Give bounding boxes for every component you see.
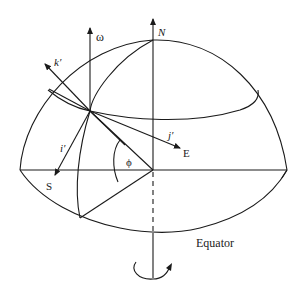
label-k-prime: k′ [54,56,62,68]
label-omega: ω [96,30,104,44]
k-prime-vector [45,64,90,111]
j-prime-vector [90,111,180,148]
label-j-prime: j′ [166,129,174,141]
label-equator: Equator [196,236,234,250]
rotation-arrow [134,262,170,279]
tangent-line [49,89,90,111]
label-east: E [183,147,190,159]
label-south: S [46,180,52,192]
phi-angle-arc [114,140,120,182]
meridian-arc [77,40,153,218]
label-phi: ϕ [126,156,132,168]
label-i-prime: i′ [60,142,66,154]
earth-diagram: ω N k′ j′ i′ E S ϕ Equator [0,0,297,294]
label-north: N [157,26,166,38]
